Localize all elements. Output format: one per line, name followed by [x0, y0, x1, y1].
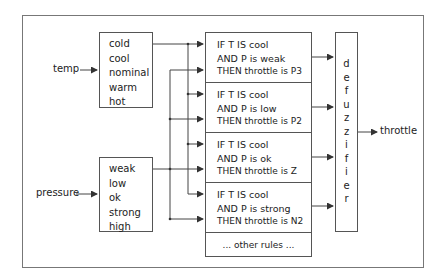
set-item: high [109, 220, 152, 235]
rule-1: IF T IS cool AND P is weak THEN throttle… [206, 33, 311, 83]
pressure-fuzzy-sets: weak low ok strong high [99, 157, 153, 232]
set-item: cold [109, 37, 152, 52]
throttle-output-label: throttle [380, 125, 417, 136]
rule-3: IF T IS cool AND P is ok THEN throttle i… [206, 133, 311, 183]
temp-fuzzy-sets: cold cool nominal warm hot [99, 32, 153, 108]
set-item: ok [109, 191, 152, 206]
rules-stack: IF T IS cool AND P is weak THEN throttle… [205, 32, 312, 257]
defuzzifier-box: d e f u z z i f i e r [335, 32, 358, 232]
set-item: weak [109, 162, 152, 177]
set-item: strong [109, 206, 152, 221]
set-item: low [109, 177, 152, 192]
pressure-input-label: pressure [36, 187, 79, 198]
other-rules: ... other rules ... [206, 233, 311, 258]
rule-4: IF T IS cool AND P is strong THEN thrott… [206, 183, 311, 233]
temp-input-label: temp [53, 63, 79, 74]
set-item: cool [109, 52, 152, 67]
rule-2: IF T IS cool AND P is low THEN throttle … [206, 83, 311, 133]
set-item: nominal [109, 66, 152, 81]
set-item: hot [109, 95, 152, 110]
set-item: warm [109, 81, 152, 96]
